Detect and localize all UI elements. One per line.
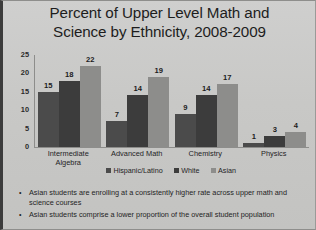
bar-value-label: 7 — [106, 110, 127, 119]
legend-label: Hispanic/Latino — [113, 166, 162, 175]
slide-title-line-1: Percent of Upper Level Math and — [3, 4, 316, 23]
bar-slot: 19 — [148, 55, 169, 147]
x-axis-labels: IntermediateAlgebraAdvanced MathChemistr… — [34, 150, 308, 167]
bar-slot: 1 — [243, 55, 264, 147]
legend-swatch-icon — [211, 168, 216, 173]
bar-value-label: 19 — [148, 66, 169, 75]
bar[interactable]: 14 — [196, 95, 217, 147]
bar-value-label: 18 — [59, 70, 80, 79]
y-axis-tick: 25 — [9, 51, 29, 59]
bar[interactable]: 3 — [264, 136, 285, 147]
bar-value-label: 14 — [127, 84, 148, 93]
bar-slot: 15 — [38, 55, 59, 147]
bar[interactable]: 22 — [80, 66, 101, 147]
slide-title: Percent of Upper Level Math and Science … — [3, 4, 316, 41]
bar[interactable]: 9 — [175, 114, 196, 147]
slide-title-line-2: Science by Ethnicity, 2008-2009 — [3, 23, 316, 42]
bullet-item: •Asian students comprise a lower proport… — [17, 210, 307, 220]
y-axis-tick: 5 — [9, 125, 29, 133]
bar-slot: 14 — [127, 55, 148, 147]
bar-value-label: 15 — [38, 81, 59, 90]
slide-canvas: Percent of Upper Level Math and Science … — [0, 0, 316, 230]
chart-legend: Hispanic/LatinoWhiteAsian — [34, 166, 308, 175]
x-axis-category-label: IntermediateAlgebra — [34, 150, 103, 167]
legend-item[interactable]: Asian — [211, 166, 236, 175]
bar[interactable]: 1 — [243, 143, 264, 147]
bar-group: 151822 — [35, 55, 104, 147]
bullet-item: •Asian students are enrolling at a consi… — [17, 188, 307, 207]
bar-value-label: 4 — [285, 121, 306, 130]
x-axis-category-label: Physics — [240, 150, 309, 167]
bar-slot: 3 — [264, 55, 285, 147]
y-axis-tick: 20 — [9, 69, 29, 77]
bar[interactable]: 18 — [59, 81, 80, 147]
bar-chart: 2520151050 1518227141991417134 Intermedi… — [9, 51, 311, 173]
bar-group: 91417 — [172, 55, 241, 147]
bar-group: 134 — [241, 55, 310, 147]
bar-value-label: 9 — [175, 103, 196, 112]
bar-slot: 18 — [59, 55, 80, 147]
bar[interactable]: 7 — [106, 121, 127, 147]
bullet-marker-icon: • — [19, 210, 21, 220]
legend-item[interactable]: White — [174, 166, 200, 175]
legend-swatch-icon — [174, 168, 179, 173]
legend-label: White — [181, 166, 199, 175]
y-axis-tick: 15 — [9, 88, 29, 96]
bar[interactable]: 14 — [127, 95, 148, 147]
bar[interactable]: 17 — [217, 84, 238, 147]
legend-label: Asian — [218, 166, 236, 175]
y-axis-tick: 10 — [9, 106, 29, 114]
bar-slot: 17 — [217, 55, 238, 147]
bar-value-label: 17 — [217, 73, 238, 82]
x-axis-category-label: Advanced Math — [103, 150, 172, 167]
bar-slot: 7 — [106, 55, 127, 147]
x-axis-category-label: Chemistry — [171, 150, 240, 167]
bar-value-label: 22 — [80, 55, 101, 64]
bar-value-label: 3 — [264, 125, 285, 134]
bullet-text: Asian students are enrolling at a consis… — [29, 188, 287, 207]
bar-value-label: 14 — [196, 84, 217, 93]
bar[interactable]: 15 — [38, 92, 59, 147]
plot-area: 1518227141991417134 — [34, 55, 309, 148]
bar-slot: 14 — [196, 55, 217, 147]
legend-swatch-icon — [106, 168, 111, 173]
bar[interactable]: 4 — [285, 132, 306, 147]
bar-group: 71419 — [104, 55, 173, 147]
bar-groups: 1518227141991417134 — [35, 55, 309, 147]
legend-item[interactable]: Hispanic/Latino — [106, 166, 163, 175]
bar-slot: 22 — [80, 55, 101, 147]
bar-slot: 4 — [285, 55, 306, 147]
bullet-list: •Asian students are enrolling at a consi… — [17, 188, 307, 222]
y-axis-tick: 0 — [9, 143, 29, 151]
bar-value-label: 1 — [243, 132, 264, 141]
bullet-text: Asian students comprise a lower proporti… — [29, 210, 274, 219]
bullet-marker-icon: • — [19, 188, 21, 198]
bar-slot: 9 — [175, 55, 196, 147]
bar[interactable]: 19 — [148, 77, 169, 147]
